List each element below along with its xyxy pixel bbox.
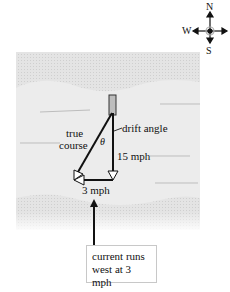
compass-south-label: S	[206, 46, 212, 56]
compass-west-label: W	[182, 26, 191, 36]
compass-icon	[193, 12, 227, 43]
callout-line1: current runs	[92, 250, 151, 263]
current-speed-label: 3 mph	[82, 184, 110, 196]
theta-label: θ	[100, 136, 105, 148]
drift-angle-label: drift angle	[122, 122, 168, 134]
boat-speed-label: 15 mph	[117, 150, 150, 162]
boat-icon	[109, 95, 116, 115]
current-callout-box: current runs west at 3 mph	[86, 245, 157, 283]
compass-north-label: N	[206, 2, 213, 12]
water-region	[16, 52, 200, 230]
true-course-label-line2: course	[59, 139, 88, 151]
true-course-label-line1: true	[66, 127, 83, 139]
callout-line2: west at 3 mph	[92, 263, 151, 289]
